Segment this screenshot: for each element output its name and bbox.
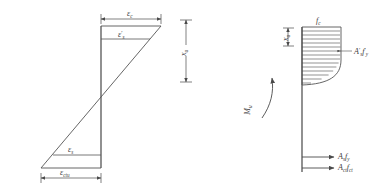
label-moment: Mu [243, 105, 253, 116]
strain-diagram-group: εc ε′s εs εctu xu [41, 9, 192, 183]
label-steel-tension-force: Asfy [337, 152, 350, 162]
strain-profile-outline [41, 26, 161, 168]
stress-diagram-group: fc xu A′sf′y Mu Asfy Actfct [243, 16, 369, 173]
label-epsilon-s: εs [68, 145, 73, 155]
label-compression-force: A′sf′y [353, 47, 369, 57]
figure-svg: εc ε′s εs εctu xu [0, 0, 375, 190]
stress-block-outline [302, 27, 341, 85]
label-fc: fc [316, 16, 321, 26]
label-xu-stress: xu [281, 35, 291, 43]
label-epsilon-s-prime: ε′s [118, 30, 125, 40]
label-epsilon-ctu: εctu [60, 168, 70, 178]
label-concrete-tension-force: Actfct [337, 163, 353, 173]
diagram-canvas: εc ε′s εs εctu xu [0, 0, 375, 190]
label-epsilon-c: εc [127, 9, 133, 19]
moment-arrow [262, 78, 273, 118]
label-xu-strain: xu [179, 50, 189, 58]
bottom-strain-dimension [41, 173, 101, 183]
